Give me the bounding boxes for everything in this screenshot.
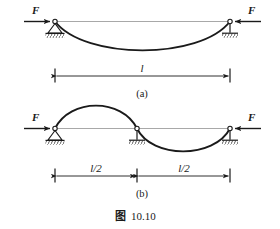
panel-a-force-label-left: F bbox=[31, 4, 40, 16]
panel-b-force-label-right: F bbox=[247, 111, 256, 123]
panel-b-dimensions: l/2 l/2 bbox=[55, 162, 230, 183]
figure-caption-number: 10.10 bbox=[131, 210, 156, 222]
panel-b: F F bbox=[24, 106, 261, 200]
panel-b-label: (b) bbox=[136, 188, 149, 200]
figure-container: F F l bbox=[0, 0, 280, 229]
figure-caption: 图 10.10 bbox=[115, 210, 156, 223]
panel-b-force-label-left: F bbox=[31, 111, 40, 123]
engineering-figure-buckling-modes: F F l bbox=[0, 0, 280, 229]
figure-caption-cjk-prefix: 图 bbox=[115, 210, 126, 223]
panel-a-force-label-right: F bbox=[247, 4, 256, 16]
panel-b-dimension-label-left: l/2 bbox=[90, 162, 102, 174]
panel-a-dimension-label: l bbox=[140, 62, 143, 74]
panel-a: F F l bbox=[24, 4, 261, 100]
panel-b-dimension-label-right: l/2 bbox=[178, 162, 190, 174]
panel-a-dimension: l bbox=[55, 62, 230, 83]
panel-a-buckling-curve bbox=[55, 22, 230, 51]
panel-a-label: (a) bbox=[136, 88, 148, 100]
